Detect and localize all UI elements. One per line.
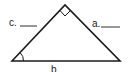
right-angle-marker <box>60 11 71 17</box>
right-triangle-diagram: c. a. b <box>0 0 128 72</box>
side-b-label: b <box>51 64 57 72</box>
side-c-label: c. <box>9 17 17 28</box>
triangle-shape <box>12 5 120 61</box>
angle-arc-marker <box>20 53 24 62</box>
side-a-label: a. <box>92 18 100 29</box>
